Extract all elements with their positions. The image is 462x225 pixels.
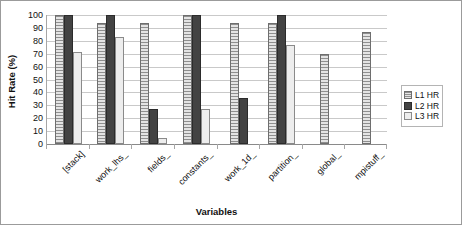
x-axis-category-label: work_1d_	[222, 149, 257, 184]
x-axis-category-label: fields_	[146, 149, 171, 174]
bar	[277, 15, 286, 144]
legend-item[interactable]: L2 HR	[404, 102, 439, 111]
x-axis-category-label: global_	[314, 149, 342, 177]
y-axis-tick-label: 30	[33, 101, 43, 110]
legend-swatch-icon	[404, 102, 412, 110]
bar	[115, 37, 124, 144]
bar	[201, 109, 210, 144]
legend-item[interactable]: L3 HR	[404, 112, 439, 121]
legend-swatch-icon	[404, 112, 412, 120]
bar-group	[303, 15, 346, 144]
legend-item[interactable]: L1 HR	[404, 91, 439, 100]
legend-label: L2 HR	[415, 102, 439, 111]
x-axis-category-label: [stack]	[61, 149, 86, 174]
y-axis-title-text: Hit Rate (%)	[7, 54, 18, 107]
bar-group	[345, 15, 388, 144]
x-axis-category-label: work_lhs_	[93, 149, 129, 185]
bar	[64, 15, 73, 144]
bar	[230, 23, 239, 144]
bar-group	[47, 15, 90, 144]
bar	[320, 54, 329, 144]
y-axis-tick-label: 90	[33, 23, 43, 32]
bar	[55, 15, 64, 144]
bar	[192, 15, 201, 144]
x-axis-category-label: constants_	[176, 149, 214, 187]
bar	[73, 52, 82, 144]
x-axis-category-labels: [stack]work_lhs_fields_constants_work_1d…	[46, 149, 387, 207]
bar	[362, 32, 371, 144]
bar-chart: Hit Rate (%) 0102030405060708090100 [sta…	[0, 0, 462, 225]
bar	[149, 109, 158, 144]
chart-legend: L1 HRL2 HRL3 HR	[401, 85, 443, 127]
legend-swatch-icon	[404, 91, 412, 99]
y-axis-tick-label: 0	[38, 140, 43, 149]
bar-group	[260, 15, 303, 144]
y-axis-tick-labels: 0102030405060708090100	[19, 15, 45, 144]
y-axis-tick-label: 50	[33, 75, 43, 84]
y-axis-tick-label: 10	[33, 127, 43, 136]
bar	[97, 23, 106, 144]
y-axis-tick-label: 100	[28, 11, 43, 20]
legend-label: L3 HR	[415, 112, 439, 121]
x-axis-category-label: partition_	[266, 149, 299, 182]
y-axis-tick-label: 20	[33, 114, 43, 123]
bars-layer	[47, 15, 387, 144]
y-axis-tick-label: 80	[33, 36, 43, 45]
bar-group	[218, 15, 261, 144]
x-axis-category-label: mpistuff_	[352, 149, 385, 182]
bar-group	[90, 15, 133, 144]
x-axis-title: Variables	[46, 206, 387, 217]
bar	[183, 15, 192, 144]
bar	[286, 45, 295, 144]
bar	[239, 98, 248, 144]
bar	[268, 23, 277, 144]
plot-area	[46, 15, 387, 144]
bar	[106, 15, 115, 144]
bar-group	[132, 15, 175, 144]
bar-group	[175, 15, 218, 144]
bar	[140, 23, 149, 144]
y-axis-tick-label: 40	[33, 88, 43, 97]
y-axis-tick-label: 60	[33, 62, 43, 71]
legend-label: L1 HR	[415, 91, 439, 100]
y-axis-tick-label: 70	[33, 49, 43, 58]
